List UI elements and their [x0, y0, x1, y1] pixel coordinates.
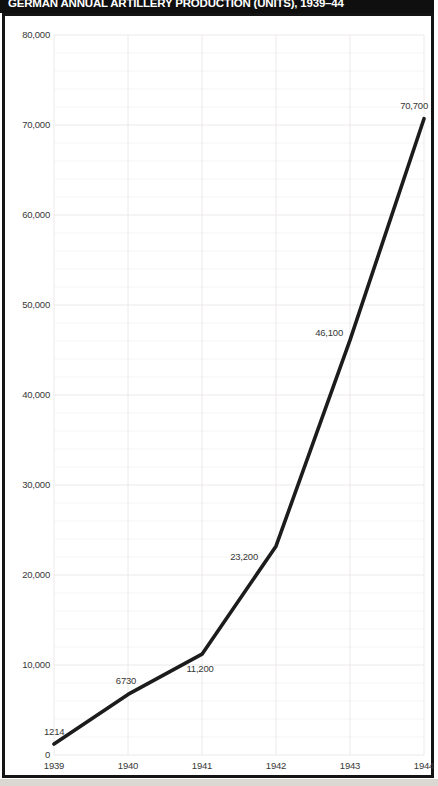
x-tick-label-1943: 1943 [340, 760, 360, 771]
point-label-1941: 11,200 [186, 663, 213, 674]
y-tick-label-30000: 30,000 [22, 479, 50, 490]
point-label-1942: 23,200 [230, 551, 258, 562]
y-tick-label-20000: 20,000 [22, 569, 50, 580]
x-tick-label-1941: 1941 [192, 760, 212, 771]
chart-title: GERMAN ANNUAL ARTILLERY PRODUCTION (UNIT… [8, 0, 434, 9]
x-tick-label-1942: 1942 [266, 760, 286, 771]
x-tick-label-1939: 1939 [44, 760, 64, 771]
x-tick-label-1940: 1940 [118, 760, 138, 771]
y-tick-label-70000: 70,000 [22, 119, 50, 130]
page: GERMAN ANNUAL ARTILLERY PRODUCTION (UNIT… [0, 0, 438, 786]
y-tick-label-80000: 80,000 [22, 29, 50, 40]
chart-title-band: GERMAN ANNUAL ARTILLERY PRODUCTION (UNIT… [0, 0, 434, 13]
point-label-1943: 46,100 [315, 327, 343, 338]
point-label-1944: 70,700 [400, 100, 428, 111]
x-tick-label-1944: 1944 [414, 760, 434, 771]
point-label-1939: 1214 [44, 726, 64, 737]
y-tick-label-10000: 10,000 [22, 659, 50, 670]
point-label-1940: 6730 [116, 675, 136, 686]
line-chart: 1214673011,20023,20046,10070,700010,0002… [0, 0, 438, 786]
y-tick-label-60000: 60,000 [22, 209, 50, 220]
y-tick-label-50000: 50,000 [22, 299, 50, 310]
y-tick-label-40000: 40,000 [22, 389, 50, 400]
y-tick-label-0: 0 [45, 749, 50, 760]
